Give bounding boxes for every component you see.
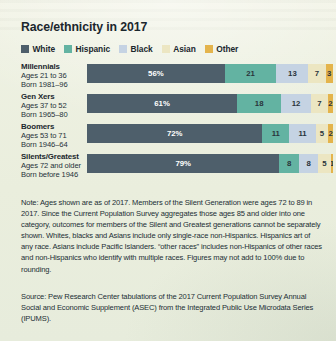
bar-row: Gen XersAges 37 to 52Born 1965–8061%1812… — [21, 92, 333, 122]
bar-segment-asian: 7 — [308, 64, 325, 83]
generation-birth-years: Born 1965–80 — [21, 110, 83, 119]
chart-legend: White Hispanic Black Asian Other — [21, 44, 238, 54]
bar-segment-white: 79% — [87, 154, 279, 173]
chart-note: Note: Ages shown are as of 2017. Members… — [21, 197, 323, 275]
bar-segment-hispanic: 21 — [225, 64, 277, 83]
generation-name: Gen Xers — [21, 92, 83, 101]
bar-segment-other: 1 — [331, 154, 333, 173]
generation-ages: Ages 72 and older — [21, 161, 83, 170]
generation-birth-years: Born 1946–64 — [21, 140, 83, 149]
legend-label-hispanic: Hispanic — [76, 44, 111, 54]
generation-name: Silents/Greatest — [21, 152, 83, 161]
bar-row-labels: Gen XersAges 37 to 52Born 1965–80 — [21, 92, 83, 120]
legend-swatch-other — [205, 45, 213, 53]
bar-segment-black: 12 — [281, 94, 311, 113]
bar-segment-hispanic: 8 — [279, 154, 298, 173]
generation-name: Boomers — [21, 122, 83, 131]
legend-swatch-asian — [162, 45, 170, 53]
bar-segment-white: 61% — [87, 94, 237, 113]
bar-segment-white: 56% — [87, 64, 225, 83]
bar-chart-rows: MillennialsAges 21 to 36Born 1981–9656%2… — [21, 62, 333, 182]
stacked-bar: 56%211373 — [87, 64, 333, 83]
bar-segment-black: 8 — [299, 154, 318, 173]
legend-item-other: Other — [205, 44, 239, 54]
page-title: Race/ethnicity in 2017 — [21, 20, 147, 34]
bar-row-labels: MillennialsAges 21 to 36Born 1981–96 — [21, 62, 83, 90]
bar-segment-asian: 7 — [311, 94, 328, 113]
generation-ages: Ages 53 to 71 — [21, 131, 83, 140]
chart-page: Race/ethnicity in 2017 White Hispanic Bl… — [0, 0, 336, 341]
bar-segment-other: 2 — [328, 124, 333, 143]
legend-label-white: White — [33, 44, 56, 54]
bar-segment-other: 2 — [328, 94, 333, 113]
bar-segment-asian: 5 — [316, 124, 328, 143]
generation-birth-years: Born 1981–96 — [21, 80, 83, 89]
bar-row-labels: Silents/GreatestAges 72 and olderBorn be… — [21, 152, 83, 180]
generation-ages: Ages 21 to 36 — [21, 71, 83, 80]
stacked-bar: 72%111152 — [87, 124, 333, 143]
bar-segment-black: 13 — [276, 64, 308, 83]
legend-item-black: Black — [119, 44, 153, 54]
bar-segment-white: 72% — [87, 124, 262, 143]
legend-swatch-white — [21, 45, 29, 53]
legend-label-black: Black — [131, 44, 153, 54]
bar-segment-black: 11 — [289, 124, 316, 143]
legend-item-asian: Asian — [162, 44, 196, 54]
generation-ages: Ages 37 to 52 — [21, 101, 83, 110]
bar-segment-asian: 5 — [318, 154, 330, 173]
legend-item-white: White — [21, 44, 55, 54]
generation-birth-years: Born before 1946 — [21, 170, 83, 179]
stacked-bar: 61%181272 — [87, 94, 333, 113]
bar-segment-hispanic: 18 — [237, 94, 281, 113]
bar-row: BoomersAges 53 to 71Born 1946–6472%11115… — [21, 122, 333, 152]
legend-label-other: Other — [216, 44, 238, 54]
legend-label-asian: Asian — [173, 44, 196, 54]
bar-segment-hispanic: 11 — [262, 124, 289, 143]
legend-item-hispanic: Hispanic — [64, 44, 110, 54]
legend-swatch-hispanic — [64, 45, 72, 53]
bar-segment-other: 3 — [326, 64, 333, 83]
stacked-bar: 79%8851 — [87, 154, 333, 173]
bar-row-labels: BoomersAges 53 to 71Born 1946–64 — [21, 122, 83, 150]
legend-swatch-black — [119, 45, 127, 53]
chart-source: Source: Pew Research Center tabulations … — [21, 291, 323, 324]
bar-row: MillennialsAges 21 to 36Born 1981–9656%2… — [21, 62, 333, 92]
generation-name: Millennials — [21, 62, 83, 71]
bar-row: Silents/GreatestAges 72 and olderBorn be… — [21, 152, 333, 182]
